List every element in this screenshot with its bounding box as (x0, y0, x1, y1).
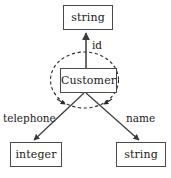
edge-label-name: name (126, 113, 155, 124)
node-string-bottom[interactable]: string (116, 142, 166, 167)
node-integer[interactable]: integer (10, 142, 62, 167)
node-customer-label: Customer (61, 75, 116, 86)
diagram-canvas: string Customer integer string id teleph… (0, 0, 171, 178)
edge-label-id: id (92, 40, 102, 51)
node-string-top-label: string (71, 12, 105, 23)
node-string-top[interactable]: string (63, 5, 113, 30)
node-integer-label: integer (15, 149, 56, 160)
node-string-bottom-label: string (124, 149, 158, 160)
edge-label-telephone: telephone (3, 113, 56, 124)
node-customer[interactable]: Customer (60, 68, 117, 93)
